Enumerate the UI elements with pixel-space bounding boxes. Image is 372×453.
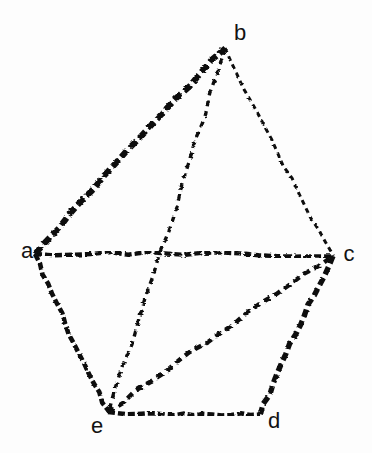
graph-canvas [0, 0, 372, 453]
vertex-label-d: d [268, 410, 280, 432]
vertex-label-c: c [344, 243, 355, 265]
vertex-label-b: b [234, 22, 246, 44]
graph-figure: abcde [0, 0, 372, 453]
graph-edge-ae [35, 254, 109, 411]
graph-edge-bc [225, 48, 334, 256]
graph-edge-ed [108, 412, 260, 415]
graph-edge-ab [35, 48, 225, 254]
vertex-label-e: e [91, 415, 103, 437]
graph-edge-ac [35, 252, 333, 257]
graph-edge-ec [108, 256, 333, 412]
graph-edge-be [109, 48, 225, 412]
edge-layer [35, 48, 334, 415]
vertex-label-a: a [21, 240, 33, 262]
